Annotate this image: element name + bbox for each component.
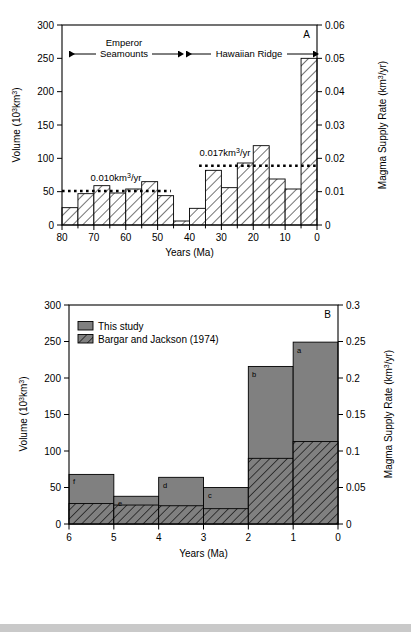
panel-b-y-left-label: Volume (103km3): [18, 376, 30, 451]
tick-label: 0: [346, 519, 352, 530]
tick-label: 0: [325, 220, 331, 231]
tick-label: 300: [37, 20, 54, 31]
tick-label: 1: [290, 532, 296, 543]
bar-b-2-1-bargar: [248, 458, 293, 524]
tick-label: 0.25: [346, 336, 366, 347]
bar-5-0: [301, 58, 317, 225]
tick-label: 20: [248, 232, 260, 243]
figure-container: 0 50 100 150 200 250 300 0 0.01 0.02 0.0…: [0, 0, 411, 632]
tick-label: 80: [56, 232, 68, 243]
tick-label: 150: [44, 409, 61, 420]
tick-label: 3: [201, 532, 207, 543]
tick-label: 50: [50, 482, 62, 493]
tick-label: 50: [43, 186, 55, 197]
tick-label: 70: [88, 232, 100, 243]
bar-35-30: [205, 170, 221, 225]
bar-50-45: [158, 196, 174, 225]
tick-label: 0: [55, 519, 61, 530]
panel-a-x-axis-label: Years (Ma): [165, 247, 214, 258]
tick-label: 250: [37, 53, 54, 64]
bar-25-20: [237, 163, 253, 225]
bar-45-40: [174, 221, 190, 225]
bar-label-c: c: [208, 491, 212, 500]
tick-label: 2: [246, 532, 252, 543]
tick-label: 60: [120, 232, 132, 243]
bar-30-25: [221, 188, 237, 225]
tick-label: 0.03: [325, 120, 345, 131]
bar-b-1-0-bargar: [293, 442, 338, 524]
bar-80-75: [62, 208, 78, 225]
legend-swatch-bargar-jackson: [78, 335, 93, 344]
tick-label: 0.2: [346, 373, 360, 384]
tick-label: 200: [44, 373, 61, 384]
bar-40-35: [190, 208, 206, 225]
bar-b-6-5-bargar: [69, 504, 114, 524]
panel-a-y-right-label: Magma Supply Rate (km3/yr): [377, 61, 389, 189]
tick-label: 0.1: [346, 446, 360, 457]
tick-label: 50: [152, 232, 164, 243]
legend-swatch-this-study: [78, 322, 93, 331]
bar-15-10: [269, 179, 285, 225]
bar-70-65: [94, 186, 110, 225]
tick-label: 0.04: [325, 86, 345, 97]
tick-label: 30: [216, 232, 228, 243]
tick-label: 0.02: [325, 153, 345, 164]
tick-label: 0.01: [325, 186, 345, 197]
tick-label: 0.05: [346, 482, 366, 493]
tick-label: 100: [44, 446, 61, 457]
panel-a-id: A: [303, 29, 310, 40]
bar-b-4-3-bargar: [159, 506, 204, 524]
figure-svg: 0 50 100 150 200 250 300 0 0.01 0.02 0.0…: [0, 0, 411, 632]
tick-label: 0: [48, 220, 54, 231]
panel-b-y-right-label: Magma Supply Rate (km3/yr): [383, 350, 395, 478]
panel-a-y-left-label: Volume (103km3): [11, 87, 23, 162]
emperor-label-line2: Seamounts: [100, 48, 148, 59]
bottom-status-strip: [0, 624, 411, 632]
tick-label: 5: [111, 532, 117, 543]
tick-label: 10: [280, 232, 292, 243]
tick-label: 0.15: [346, 409, 366, 420]
bar-b-3-2-bargar: [204, 509, 249, 524]
bar-65-60: [110, 193, 126, 225]
tick-label: 300: [44, 300, 61, 311]
emperor-label-line1: Emperor: [106, 37, 142, 48]
tick-label: 100: [37, 153, 54, 164]
bar-10-5: [285, 189, 301, 225]
bar-label-e: e: [118, 499, 122, 508]
tick-label: 250: [44, 336, 61, 347]
rate-label-0010: 0.010km3/yr: [91, 172, 142, 184]
rate-label-0017: 0.017km3/yr: [200, 147, 251, 159]
tick-label: 0: [314, 232, 320, 243]
legend-label-bargar-jackson: Bargar and Jackson (1974): [98, 334, 219, 345]
bar-60-55: [126, 189, 142, 225]
panel-b-id: B: [324, 309, 331, 320]
tick-label: 0: [335, 532, 341, 543]
legend-label-this-study: This study: [98, 321, 144, 332]
bar-20-15: [253, 146, 269, 225]
panel-b-x-axis-label: Years (Ma): [179, 548, 228, 559]
bar-label-b: b: [252, 370, 256, 379]
hawaiian-ridge-label: Hawaiian Ridge: [216, 48, 283, 59]
bar-label-d: d: [163, 481, 167, 490]
tick-label: 0.05: [325, 53, 345, 64]
tick-label: 6: [66, 532, 72, 543]
tick-label: 200: [37, 86, 54, 97]
bar-75-70: [78, 194, 94, 225]
tick-label: 4: [156, 532, 162, 543]
panel-a-bottom-ticklabels: 80 70 60 50 40 30 20 10 0: [56, 232, 320, 243]
bar-55-50: [142, 182, 158, 225]
tick-label: 40: [184, 232, 196, 243]
tick-label: 150: [37, 120, 54, 131]
tick-label: 0.06: [325, 20, 345, 31]
tick-label: 0.3: [346, 300, 360, 311]
